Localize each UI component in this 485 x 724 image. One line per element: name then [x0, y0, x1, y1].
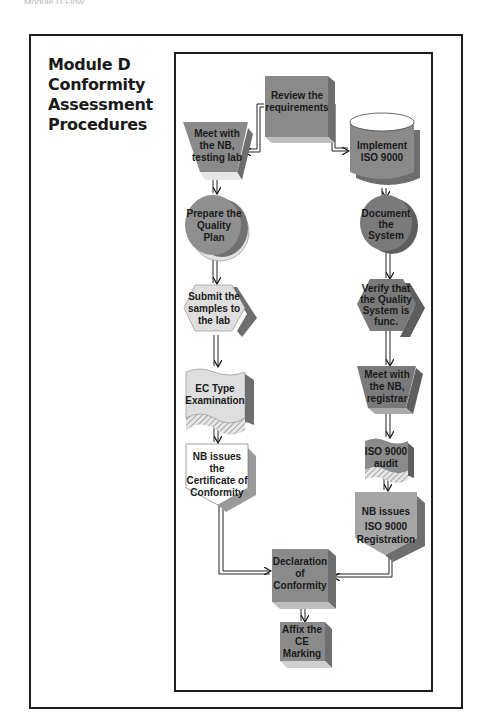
node-nb-certificate: NB issues the Certificate of Conformity — [186, 444, 256, 512]
node-label: ISO 9000 — [361, 152, 404, 163]
node-iso9000-audit: ISO 9000 audit — [365, 439, 414, 484]
node-label: Review the — [271, 90, 324, 101]
node-label: requirements — [265, 102, 329, 113]
node-label: samples to — [188, 303, 240, 314]
node-prepare-quality-plan: Prepare the Quality Plan — [185, 195, 249, 261]
edge-verify-registrar — [386, 330, 390, 365]
node-label: Document — [362, 208, 412, 219]
node-label: the NB, — [370, 381, 405, 392]
node-label: of — [295, 568, 305, 579]
node-label: the — [379, 219, 394, 230]
node-label: the lab — [198, 315, 230, 326]
node-label: EC Type — [195, 383, 235, 394]
node-label: ISO 9000 — [365, 521, 408, 532]
node-label: Plan — [203, 232, 224, 243]
node-label: Conformity — [273, 580, 327, 591]
node-implement-iso9000: Implement ISO 9000 — [350, 113, 420, 185]
node-label: System — [368, 230, 404, 241]
edge-document-verify — [386, 252, 390, 278]
node-submit-samples: Submit the samples to the lab — [184, 285, 257, 337]
node-label: Conformity — [190, 487, 244, 498]
node-label: Meet with — [364, 369, 410, 380]
node-verify-quality-system: Verify that the Quality System is func. — [357, 279, 425, 337]
node-label: Quality — [197, 220, 231, 231]
node-affix-ce-marking: Affix the CE Marking — [280, 622, 332, 668]
node-label: the NB, — [200, 140, 235, 151]
node-label: Examination — [185, 395, 244, 406]
node-ec-type-examination: EC Type Examination — [185, 369, 254, 435]
node-document-system: Document the System — [360, 195, 418, 254]
node-label: the Quality — [360, 294, 412, 305]
node-label: Meet with — [194, 128, 240, 139]
edge-submit-ec — [214, 335, 218, 366]
node-label: Declaration — [273, 556, 327, 567]
flowchart: Review the requirements Meet with the NB… — [0, 0, 485, 724]
node-label: NB issues — [193, 451, 242, 462]
node-label: Prepare the — [186, 208, 241, 219]
node-review-requirements: Review the requirements — [265, 76, 335, 143]
node-label: Marking — [283, 648, 321, 659]
node-label: testing lab — [192, 152, 242, 163]
node-label: NB issues — [362, 506, 411, 517]
node-label: Registration — [357, 534, 415, 545]
node-declaration-of-conformity: Declaration of Conformity — [272, 549, 336, 609]
node-label: Certificate of — [186, 475, 248, 486]
node-label: Verify that — [362, 283, 411, 294]
edge-prepare-submit — [213, 258, 217, 283]
node-label: Submit the — [188, 291, 240, 302]
edge-registration-declaration — [334, 555, 392, 577]
node-label: func. — [374, 316, 398, 327]
node-label: registrar — [367, 393, 408, 404]
edge-cert-declaration — [219, 505, 270, 574]
node-label: the — [210, 463, 225, 474]
node-nb-iso-registration: NB issues ISO 9000 Registration — [355, 492, 425, 562]
node-label: System is — [363, 305, 410, 316]
node-label: CE — [295, 636, 309, 647]
node-label: Affix the — [282, 624, 322, 635]
node-meet-nb-registrar: Meet with the NB, registrar — [357, 366, 423, 414]
node-meet-nb-testing-lab: Meet with the NB, testing lab — [183, 122, 253, 180]
node-label: ISO 9000 — [365, 446, 408, 457]
node-label: audit — [374, 458, 399, 469]
node-label: Implement — [357, 140, 408, 151]
